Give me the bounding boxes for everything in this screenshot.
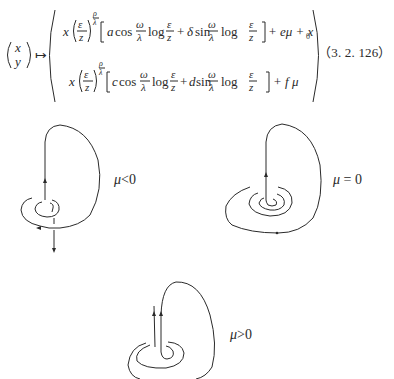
figure-mu-negative: μ<0 (0, 120, 200, 260)
svg-text:c: c (112, 74, 118, 89)
svg-text:z: z (84, 81, 90, 93)
phase-portrait-mu-positive (100, 255, 300, 379)
svg-text:ε: ε (84, 68, 89, 80)
svg-text:log: log (152, 74, 169, 89)
svg-text:λ: λ (140, 81, 146, 93)
svg-text:λ: λ (136, 31, 142, 43)
svg-text:a: a (107, 24, 114, 39)
flow-arrow-icons (36, 178, 56, 253)
svg-text:z: z (248, 31, 254, 43)
svg-text:z: z (170, 81, 176, 93)
svg-text:ω: ω (136, 18, 144, 30)
svg-text:ε: ε (249, 68, 254, 80)
svg-text:+ f μ: + f μ (273, 74, 299, 89)
svg-text:x: x (62, 24, 69, 39)
svg-text:ω: ω (140, 68, 148, 80)
label-mu-positive: μ>0 (230, 327, 252, 343)
phase-portrait-mu-negative (0, 120, 200, 260)
svg-text:ω: ω (208, 18, 216, 30)
svg-text:δ: δ (187, 24, 194, 39)
svg-text:log: log (221, 24, 238, 39)
phase-portrait-mu-zero (200, 120, 394, 260)
equation-number: （3. 2. 126） (318, 42, 392, 61)
svg-text:log: log (148, 24, 165, 39)
svg-text:cos: cos (119, 74, 136, 89)
svg-text:y: y (13, 54, 21, 69)
svg-text:z: z (248, 81, 254, 93)
svg-text:λ: λ (208, 81, 214, 93)
svg-text:↦: ↦ (35, 48, 47, 63)
svg-text:ρ: ρ (98, 59, 103, 68)
svg-text:ρ: ρ (92, 9, 97, 18)
svg-text:x: x (14, 40, 21, 55)
svg-text:λ: λ (98, 68, 103, 77)
svg-text:ε: ε (78, 18, 83, 30)
svg-text:ε: ε (167, 18, 172, 30)
svg-text:ω: ω (208, 68, 216, 80)
svg-text:x: x (68, 74, 75, 89)
svg-text:λ: λ (208, 31, 214, 43)
svg-text:cos: cos (115, 24, 132, 39)
svg-text:ε: ε (171, 68, 176, 80)
svg-text:+: + (177, 24, 184, 39)
label-mu-zero: μ = 0 (333, 172, 362, 188)
svg-text:log: log (221, 74, 238, 89)
figure-mu-zero: μ = 0 (200, 120, 394, 260)
svg-text:z: z (78, 31, 84, 43)
figure-mu-positive: μ>0 (100, 255, 300, 379)
svg-text:ε: ε (249, 18, 254, 30)
svg-text:λ: λ (92, 18, 97, 27)
svg-text:+: + (180, 74, 187, 89)
label-mu-negative: μ<0 (114, 172, 136, 188)
svg-text:0: 0 (306, 32, 310, 41)
equation-3-2-126: x y ↦ x ε z ρ λ a cos ω λ log ε z + δ si… (0, 0, 394, 108)
svg-text:d: d (189, 74, 196, 89)
svg-text:z: z (166, 31, 172, 43)
